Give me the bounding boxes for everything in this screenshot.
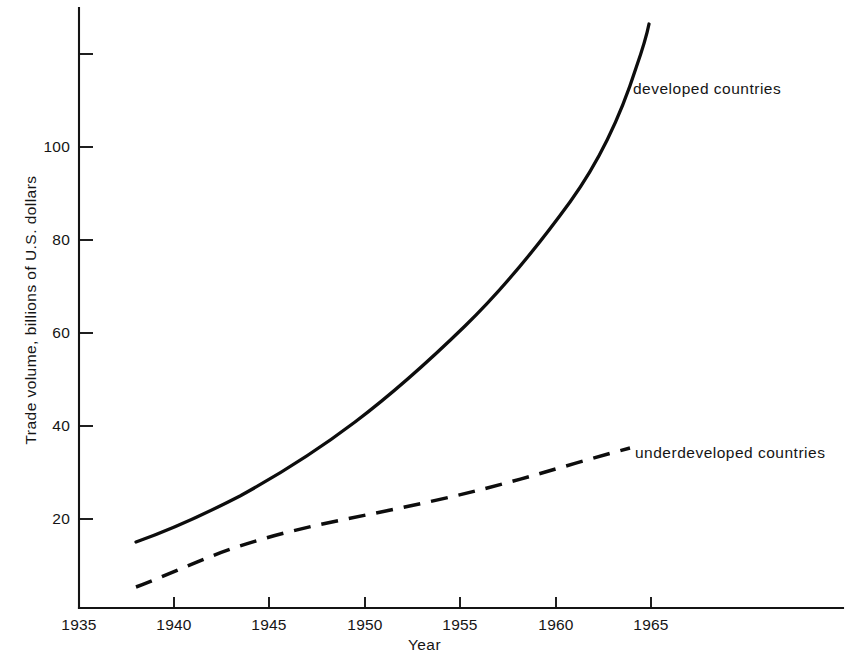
y-axis-ticks	[79, 54, 93, 519]
series-label-developed: developed countries	[633, 80, 781, 98]
x-axis-title: Year	[0, 636, 849, 654]
x-tick-label-1965: 1965	[633, 616, 668, 634]
x-tick-label-1935: 1935	[61, 616, 96, 634]
x-axis-ticks	[174, 597, 651, 608]
chart-plot-area	[0, 0, 849, 661]
x-tick-label-1960: 1960	[538, 616, 573, 634]
x-tick-label-1955: 1955	[442, 616, 477, 634]
x-tick-label-1945: 1945	[251, 616, 286, 634]
chart-figure: 100 80 60 40 20 1935 1940 1945 1950 1955…	[0, 0, 849, 661]
x-tick-label-1940: 1940	[156, 616, 191, 634]
series-line-underdeveloped	[136, 448, 630, 587]
series-label-underdeveloped: underdeveloped countries	[635, 444, 825, 462]
y-axis-title: Trade volume, billions of U.S. dollars	[22, 10, 40, 610]
x-tick-label-1950: 1950	[347, 616, 382, 634]
